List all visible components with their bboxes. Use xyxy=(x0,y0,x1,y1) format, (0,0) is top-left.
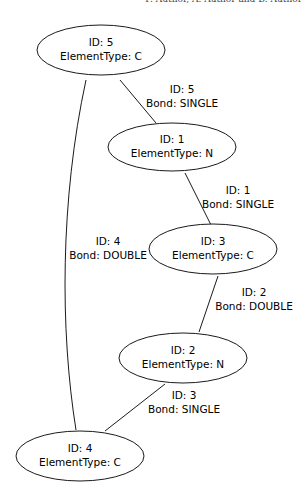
edge-3-2-id: ID: 2 xyxy=(242,286,267,298)
edge-5-4-id: ID: 4 xyxy=(96,235,121,247)
node-4-type: ElementType: C xyxy=(39,456,121,468)
node-3-id: ID: 3 xyxy=(201,235,226,247)
node-2-id: ID: 2 xyxy=(171,344,196,356)
node-3-type: ElementType: C xyxy=(172,249,254,261)
edge-3-2-bond: Bond: DOUBLE xyxy=(215,300,293,312)
node-1-type: ElementType: N xyxy=(131,147,213,159)
node-4-id: ID: 4 xyxy=(68,442,93,454)
node-1-id: ID: 1 xyxy=(160,133,185,145)
edge-2-4-id: ID: 3 xyxy=(172,389,197,401)
edge-1-3-bond: Bond: SINGLE xyxy=(202,198,274,210)
edge-5-1-bond: Bond: SINGLE xyxy=(146,97,218,109)
edge-1-3-id: ID: 1 xyxy=(226,184,251,196)
edge-5-1-id: ID: 5 xyxy=(170,83,195,95)
node-5-id: ID: 5 xyxy=(89,36,114,48)
edge-2-4-bond: Bond: SINGLE xyxy=(148,403,220,415)
node-2-type: ElementType: N xyxy=(142,358,224,370)
molecule-graph: ID: 5 ElementType: C ID: 1 ElementType: … xyxy=(0,0,308,502)
node-5-type: ElementType: C xyxy=(60,50,142,62)
edge-5-4-bond: Bond: DOUBLE xyxy=(69,249,147,261)
